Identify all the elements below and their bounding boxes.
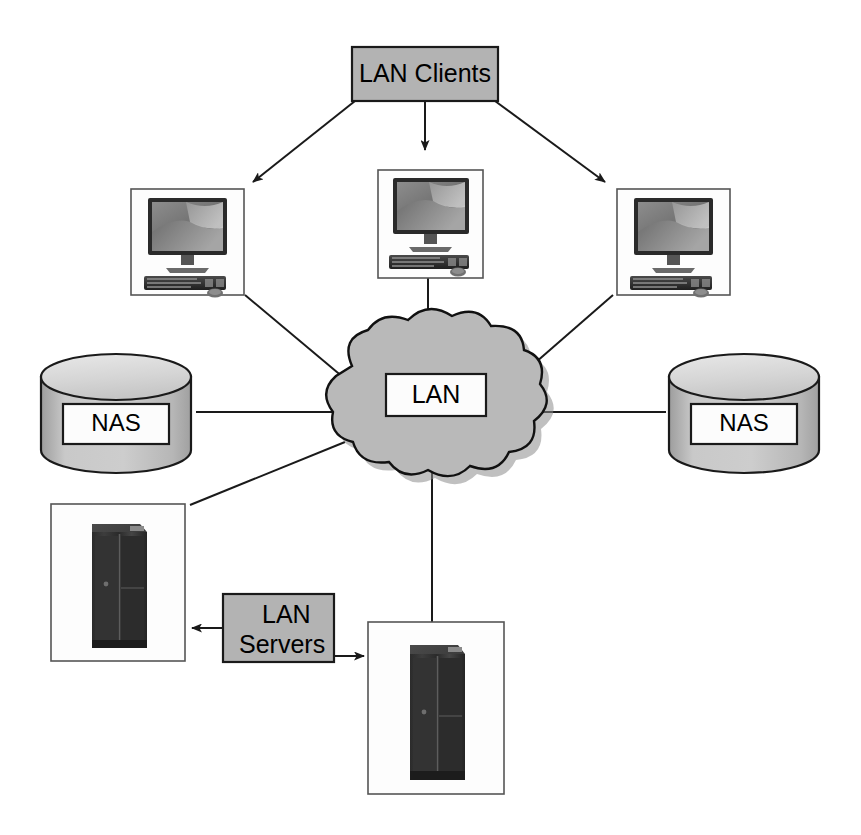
desktop-computer-icon [144, 198, 227, 298]
server-left[interactable] [51, 504, 185, 661]
workstation-center[interactable] [378, 170, 483, 278]
network-diagram: LAN Clients [0, 0, 861, 835]
edge-lanclients-to-workstation-left [253, 101, 355, 182]
lan-servers-node[interactable]: LAN Servers [192, 594, 364, 662]
lan-servers-label-line2: Servers [239, 630, 325, 658]
diagram-canvas: LAN Clients [0, 0, 861, 835]
edge-lanclients-to-workstation-right [495, 101, 605, 182]
nas-left-node[interactable]: NAS [41, 354, 191, 473]
desktop-computer-icon [630, 198, 713, 298]
nas-left-label: NAS [91, 409, 140, 436]
edge-workstation-left-to-cloud [245, 295, 350, 383]
lan-cloud-node[interactable]: LAN [326, 309, 554, 484]
server-bottom[interactable] [368, 622, 504, 794]
nas-right-label: NAS [719, 409, 768, 436]
edge-cloud-to-server-left [190, 442, 345, 505]
server-rack-icon [92, 524, 147, 648]
lan-clients-node[interactable]: LAN Clients [352, 47, 498, 101]
lan-servers-label-line1: LAN [262, 600, 311, 628]
lan-cloud-label: LAN [412, 380, 461, 408]
workstation-right[interactable] [617, 189, 730, 298]
lan-clients-label: LAN Clients [359, 59, 491, 87]
desktop-computer-icon [389, 178, 469, 277]
nas-right-node[interactable]: NAS [669, 354, 819, 473]
server-rack-icon [410, 645, 465, 780]
workstation-left[interactable] [131, 189, 244, 298]
